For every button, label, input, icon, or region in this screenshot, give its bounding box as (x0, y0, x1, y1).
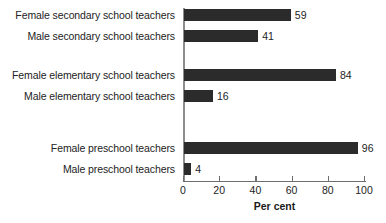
category-label-male-elementary: Male elementary school teachers (0, 90, 179, 102)
x-axis-tick-20 (219, 176, 220, 182)
x-axis-tick-0 (183, 176, 184, 182)
bar-female-preschool (184, 142, 358, 154)
x-axis-tick-label-0: 0 (180, 184, 186, 196)
bar-female-secondary (184, 9, 291, 21)
bar-value-male-elementary: 16 (217, 90, 229, 102)
bar-chart: Female secondary school teachers Male se… (0, 0, 386, 223)
x-axis-title: Per cent (183, 200, 366, 212)
x-axis-baseline (183, 181, 366, 182)
bar-male-preschool (184, 163, 191, 175)
bar-value-male-secondary: 41 (262, 30, 274, 42)
x-axis-tick-label-20: 20 (213, 184, 225, 196)
x-axis-tick-40 (255, 176, 256, 182)
plot-area: 59 41 84 16 96 4 0 20 40 60 80 100 Per c… (183, 0, 386, 223)
bar-male-elementary (184, 90, 213, 102)
category-label-female-secondary: Female secondary school teachers (0, 9, 179, 21)
bar-value-female-elementary: 84 (340, 69, 352, 81)
bar-value-female-secondary: 59 (295, 9, 307, 21)
x-axis-tick-label-100: 100 (355, 184, 373, 196)
x-axis-tick-100 (364, 176, 365, 182)
x-axis-tick-80 (328, 176, 329, 182)
category-label-female-elementary: Female elementary school teachers (0, 69, 179, 81)
category-label-female-preschool: Female preschool teachers (0, 142, 179, 154)
category-label-male-preschool: Male preschool teachers (0, 163, 179, 175)
bar-male-secondary (184, 30, 258, 42)
x-axis-tick-label-40: 40 (250, 184, 262, 196)
bar-value-male-preschool: 4 (195, 163, 201, 175)
bar-value-female-preschool: 96 (362, 142, 374, 154)
category-label-male-secondary: Male secondary school teachers (0, 30, 179, 42)
x-axis-tick-60 (292, 176, 293, 182)
x-axis-tick-label-80: 80 (322, 184, 334, 196)
x-axis-tick-label-60: 60 (286, 184, 298, 196)
bar-female-elementary (184, 69, 336, 81)
category-axis-labels: Female secondary school teachers Male se… (0, 0, 179, 182)
